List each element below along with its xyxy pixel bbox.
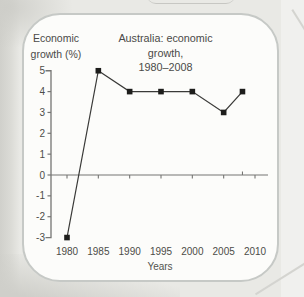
svg-text:2005: 2005	[213, 246, 236, 257]
page-texture-right	[281, 0, 304, 297]
scan-artifact-line-top-right	[292, 9, 304, 40]
svg-text:2000: 2000	[181, 246, 204, 257]
svg-text:-2: -2	[36, 211, 45, 222]
svg-text:4: 4	[39, 86, 45, 97]
svg-text:1980: 1980	[56, 246, 79, 257]
svg-text:1: 1	[39, 149, 45, 160]
svg-text:2010: 2010	[244, 246, 267, 257]
svg-text:3: 3	[39, 107, 45, 118]
svg-text:0: 0	[39, 170, 45, 181]
svg-text:-1: -1	[36, 190, 45, 201]
page-background: Economic growth (%) Australia: economic …	[0, 0, 304, 297]
svg-text:-3: -3	[36, 232, 45, 243]
adjacent-box-edge	[147, 0, 235, 4]
svg-text:1995: 1995	[150, 246, 173, 257]
chart-card: Economic growth (%) Australia: economic …	[22, 13, 279, 282]
svg-text:5: 5	[39, 65, 45, 76]
line-chart: 543210-1-2-31980198519901995200020052010	[24, 15, 277, 280]
svg-text:1985: 1985	[87, 246, 110, 257]
x-axis-label: Years	[100, 261, 220, 272]
svg-text:1990: 1990	[119, 246, 142, 257]
page-texture-left-edge	[0, 0, 20, 297]
svg-text:2: 2	[39, 128, 45, 139]
